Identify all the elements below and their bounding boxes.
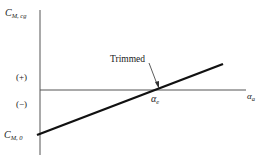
- trim-angle-label: αe: [151, 94, 159, 106]
- negative-region-label: (−): [16, 100, 27, 109]
- trimmed-annotation: Trimmed: [110, 55, 145, 65]
- positive-region-label: (+): [16, 73, 27, 82]
- moment-line: [37, 64, 223, 135]
- trimmed-arrow-head: [155, 81, 159, 89]
- intercept-label: CM, 0: [4, 130, 23, 142]
- y-axis-label: CM, cg: [5, 8, 26, 20]
- x-axis-label: αa: [247, 92, 255, 103]
- diagram-canvas: [0, 0, 267, 158]
- trimmed-arrow-shaft: [149, 63, 157, 84]
